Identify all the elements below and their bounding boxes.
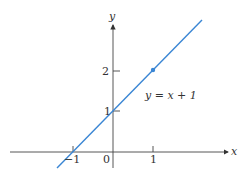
tick-label-0: 0	[103, 153, 110, 166]
tick-label-x1: 1	[150, 153, 157, 166]
tick-label-y2: 2	[102, 65, 109, 78]
y-axis-label: y	[108, 10, 116, 23]
tick-label-y1: 1	[104, 105, 111, 118]
tick-label-neg1: −1	[64, 153, 80, 166]
equation-label: y = x + 1	[144, 89, 197, 102]
point-1-2	[151, 68, 155, 72]
coordinate-plot: y x −1 0 1 1 2 y = x + 1	[0, 0, 246, 177]
x-axis-label: x	[231, 145, 238, 158]
